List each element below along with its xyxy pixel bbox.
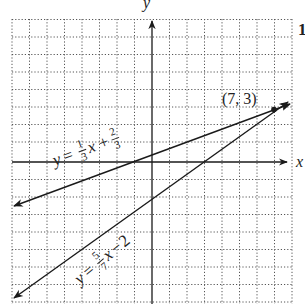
svg-text:1: 1	[75, 137, 84, 150]
y-axis-label: y	[141, 0, 151, 12]
line-five-sevenths-x-minus-two	[14, 102, 288, 298]
intersection-point	[271, 107, 277, 113]
equation-label-line-one: y = 1 3 x + 2 3	[47, 124, 124, 173]
x-axis-label: x	[295, 153, 303, 170]
point-label: (7, 3)	[222, 90, 257, 108]
svg-text:3: 3	[112, 138, 122, 151]
svg-text:3: 3	[80, 150, 90, 163]
equation-label-line-two: y = 5 7 x − 2	[66, 228, 135, 292]
problem-number: 1	[298, 20, 305, 39]
coordinate-graph: x y 1 (7, 3) y = 1 3 x + 2 3 y = 5 7 x −…	[0, 0, 305, 304]
svg-text:=: =	[60, 145, 76, 166]
svg-text:2: 2	[108, 125, 117, 138]
